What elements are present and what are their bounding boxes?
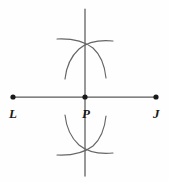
point-label-l: L xyxy=(9,107,17,120)
point-label-p: P xyxy=(82,107,90,120)
lower-left-arc xyxy=(57,116,106,155)
point-p-dot xyxy=(82,94,87,99)
point-j-dot xyxy=(153,94,158,99)
point-l-dot xyxy=(10,94,15,99)
point-label-j: J xyxy=(153,107,160,120)
upper-left-arc xyxy=(57,39,106,78)
geometry-figure: L P J xyxy=(0,0,169,182)
construction-drawing xyxy=(0,0,169,182)
